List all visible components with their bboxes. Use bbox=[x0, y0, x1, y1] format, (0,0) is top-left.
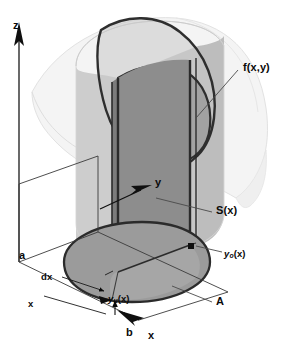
slice-area-label: S(x) bbox=[216, 205, 237, 216]
y-upper-label: yo(x) bbox=[224, 249, 246, 260]
y-lower-label: yu(x) bbox=[108, 294, 130, 305]
dx-label: dx bbox=[41, 272, 52, 282]
x-axis-arrowhead bbox=[117, 310, 144, 326]
x-measure-line bbox=[44, 296, 106, 314]
surface-label: f(x,y) bbox=[243, 62, 270, 73]
base-region-A bbox=[64, 222, 210, 302]
b-bound-label: b bbox=[126, 327, 133, 338]
y-upper-marker bbox=[188, 243, 194, 249]
y-upper-argument: (x) bbox=[234, 248, 246, 259]
z-axis-label: z bbox=[13, 20, 19, 31]
a-bound-label: a bbox=[19, 250, 25, 261]
region-label: A bbox=[216, 296, 224, 307]
integral-volume-diagram: z y x a b x dx f(x,y) S(x) A yo(x) yu(x) bbox=[0, 0, 295, 353]
diagram-canvas bbox=[0, 0, 295, 353]
y-axis-label: y bbox=[155, 177, 161, 188]
y-lower-argument: (x) bbox=[118, 293, 130, 304]
x-position-label: x bbox=[28, 299, 33, 309]
x-axis-label: x bbox=[148, 330, 154, 341]
